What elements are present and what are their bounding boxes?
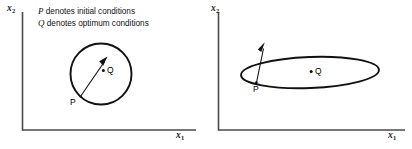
- left-point-q-marker: [102, 69, 105, 72]
- right-point-q-label: Q: [315, 67, 322, 76]
- right-y-axis-label-sub: 2: [216, 7, 219, 14]
- left-x-axis-label: x1: [176, 131, 184, 141]
- right-arrow-head: [258, 42, 265, 52]
- figure-container: P denotes initial conditions Q denotes o…: [0, 0, 412, 149]
- right-point-q-marker: [310, 70, 313, 73]
- right-point-p-label: P: [253, 85, 259, 94]
- right-x-axis-label-sub: 1: [393, 134, 396, 141]
- legend-line-q: Q denotes optimum conditions: [38, 18, 149, 30]
- right-panel-graphic: [206, 0, 412, 149]
- right-x-axis-label: x1: [388, 131, 396, 141]
- left-point-p-label: P: [70, 98, 76, 107]
- circular-contour: [71, 44, 132, 105]
- legend-text-q: denotes optimum conditions: [45, 19, 149, 28]
- legend: P denotes initial conditions Q denotes o…: [38, 6, 149, 29]
- legend-line-p: P denotes initial conditions: [38, 6, 149, 18]
- elliptical-contour-panel: x2 x1 P Q: [206, 0, 412, 149]
- left-point-p-marker: [80, 96, 82, 98]
- right-arrow-shaft: [257, 49, 264, 83]
- left-gradient-arrow: [81, 57, 108, 97]
- circular-contour-panel: P denotes initial conditions Q denotes o…: [0, 0, 206, 149]
- left-point-q-label: Q: [107, 66, 114, 75]
- legend-text-p: denotes initial conditions: [44, 7, 136, 16]
- left-x-axis-label-sub: 1: [181, 134, 184, 141]
- left-y-axis-label: x2: [7, 4, 15, 14]
- right-y-axis-label: x2: [211, 4, 219, 14]
- left-arrow-shaft: [81, 62, 105, 97]
- left-y-axis-label-sub: 2: [12, 7, 15, 14]
